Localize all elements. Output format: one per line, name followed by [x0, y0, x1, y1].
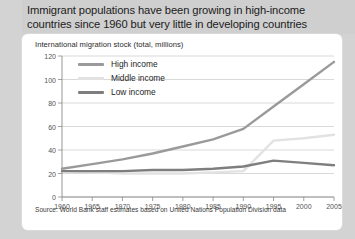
legend-item[interactable]: High income	[78, 57, 198, 71]
page-title: Immigrant populations have been growing …	[27, 3, 345, 32]
legend-item[interactable]: Middle income	[78, 71, 198, 85]
figure-header: Immigrant populations have been growing …	[22, 0, 355, 34]
y-axis-tick-label: 120	[40, 53, 56, 60]
legend-color-swatch-icon	[78, 91, 104, 94]
y-axis-tick-label: 100	[40, 76, 56, 83]
data-series-line	[62, 135, 334, 174]
y-axis-tick-label: 60	[40, 123, 56, 130]
legend-item-label: Middle income	[111, 73, 165, 83]
legend-color-swatch-icon	[78, 63, 104, 66]
y-axis-tick-label: 20	[40, 170, 56, 177]
figure-panel: Immigrant populations have been growing …	[0, 0, 355, 239]
y-axis-tick-label: 40	[40, 147, 56, 154]
chart-legend: High incomeMiddle incomeLow income	[78, 57, 198, 99]
line-chart: 1201008060402001960196519701975198019851…	[22, 34, 342, 230]
legend-item-label: High income	[111, 59, 158, 69]
x-axis-tick-label: 2000	[292, 203, 316, 210]
legend-item-label: Low income	[111, 87, 156, 97]
y-axis-tick-label: 80	[40, 100, 56, 107]
legend-item[interactable]: Low income	[78, 85, 198, 99]
chart-source-note: Source: World Bank staff estimates based…	[35, 206, 286, 213]
x-axis-tick-label: 2005	[322, 203, 346, 210]
y-axis-tick-label: 0	[40, 194, 56, 201]
chart-card: International migration stock (total, mi…	[22, 34, 342, 230]
legend-color-swatch-icon	[78, 77, 104, 80]
